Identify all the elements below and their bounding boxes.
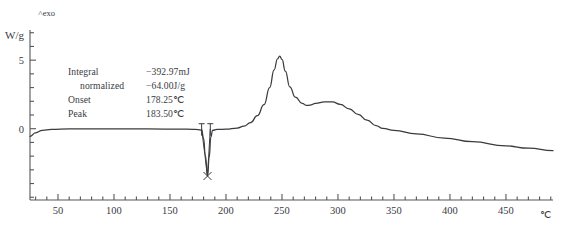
x-tick-label: 250 — [274, 205, 290, 216]
measurement-label: Peak — [68, 108, 87, 119]
onset-tangent-line — [202, 129, 208, 176]
peak-markers — [199, 124, 214, 180]
measurement-value: 178.25℃ — [146, 94, 184, 105]
dsc-thermogram-figure: 5010015020025030035040045005W/g˄exo℃ Int… — [0, 0, 570, 230]
x-tick-label: 450 — [498, 205, 514, 216]
measurement-value: −64.00J/g — [146, 80, 185, 91]
x-tick-label: 300 — [330, 205, 346, 216]
x-tick-label: 400 — [442, 205, 458, 216]
x-tick-label: 100 — [106, 205, 122, 216]
measurement-label: Integral — [68, 66, 99, 77]
x-axis-unit-label: ℃ — [540, 210, 551, 220]
x-tick-label: 350 — [386, 205, 402, 216]
measurement-value: −392.97mJ — [146, 66, 190, 77]
curve-layer — [30, 56, 553, 176]
y-axis-unit-label: W/g — [5, 29, 24, 41]
x-tick-label: 50 — [53, 205, 64, 216]
axes — [30, 30, 553, 200]
exo-direction-label: ˄exo — [38, 8, 55, 18]
heat-flow-curve — [30, 56, 553, 176]
y-tick-label: 0 — [19, 124, 24, 135]
measurement-value: 183.50℃ — [146, 108, 184, 119]
measurement-label: normalized — [68, 80, 124, 91]
y-tick-label: 5 — [19, 55, 24, 66]
measurement-label: Onset — [68, 94, 91, 105]
x-tick-label: 150 — [162, 205, 178, 216]
x-tick-label: 200 — [218, 205, 234, 216]
